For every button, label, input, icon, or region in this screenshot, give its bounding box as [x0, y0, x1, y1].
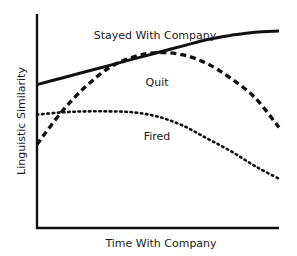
series-fired-line [37, 111, 279, 179]
label-quit: Quit [146, 76, 170, 89]
x-axis-title: Time With Company [104, 237, 217, 250]
line-chart: Stayed With Company Quit Fired Time With… [0, 0, 297, 256]
label-fired: Fired [144, 130, 171, 143]
y-axis-title: Linguistic Similarity [15, 67, 28, 175]
label-stayed-with-company: Stayed With Company [94, 29, 217, 42]
